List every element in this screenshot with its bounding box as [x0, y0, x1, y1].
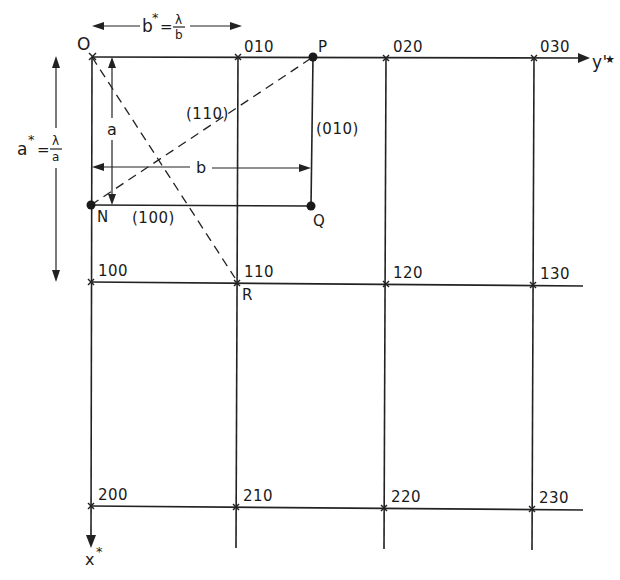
b-star-numerator: λ	[175, 13, 182, 27]
point-label-r: R	[242, 286, 253, 304]
a-length-label: a	[107, 120, 117, 139]
a-star-arrowhead-bottom	[52, 270, 60, 282]
b-arrowhead-right	[299, 164, 311, 172]
plane-110-trace	[91, 57, 313, 205]
a-star-superscript: *	[28, 132, 35, 147]
col-3-line	[532, 58, 534, 550]
plane-010-line	[311, 57, 313, 206]
node-label-110: 110	[244, 263, 274, 281]
point-label-q: Q	[313, 212, 325, 230]
point-n-dot	[87, 201, 96, 210]
y-star-arrowhead	[578, 53, 590, 63]
b-star-arrowhead-right	[230, 22, 242, 30]
node-label-020: 020	[393, 38, 423, 56]
row-1-line	[91, 282, 583, 286]
node-label-120: 120	[393, 264, 423, 282]
node-label-010: 010	[244, 38, 274, 56]
row-2-line	[91, 506, 583, 510]
row-0-line	[92, 57, 580, 58]
a-star-denominator: a	[52, 150, 59, 164]
plane-label-110: (110)	[186, 105, 229, 123]
y-star-axis-star: ★	[605, 53, 615, 66]
plane-100-line	[91, 205, 311, 206]
node-label-030: 030	[540, 38, 570, 56]
plane-labels: (110) (010) (100)	[132, 105, 359, 227]
x-star-axis-star: *	[96, 544, 103, 559]
x-star-arrowhead	[86, 535, 96, 548]
b-length-label: b	[196, 158, 207, 177]
a-arrowhead-top	[108, 57, 116, 68]
real-lattice-points	[87, 53, 318, 211]
plane-label-100: (100)	[132, 209, 175, 227]
node-label-100: 100	[98, 262, 128, 280]
a-star-numerator: λ	[52, 134, 59, 148]
plane-label-010: (010)	[316, 120, 359, 138]
col-1-line	[236, 57, 238, 548]
node-labels: 010 020 030 100 110 120 130 200 210 220 …	[98, 38, 570, 507]
node-label-220: 220	[391, 488, 421, 506]
point-label-n: N	[97, 208, 109, 226]
node-label-210: 210	[243, 487, 273, 505]
a-star-symbol: a	[17, 139, 28, 159]
lattice-columns	[86, 57, 534, 550]
b-star-equals: =	[160, 18, 173, 36]
point-label-p: P	[318, 38, 328, 56]
b-star-arrowhead-left	[92, 22, 104, 30]
col-0-line	[91, 57, 92, 536]
node-label-230: 230	[539, 489, 569, 507]
b-star-superscript: *	[152, 10, 159, 25]
x-star-axis-label: x	[85, 550, 95, 569]
reciprocal-lattice-diagram: 010 020 030 100 110 120 130 200 210 220 …	[0, 0, 620, 580]
col-2-line	[384, 58, 386, 549]
point-p-dot	[309, 53, 318, 62]
a-arrowhead-bottom	[108, 194, 116, 205]
a-star-equals: =	[37, 141, 50, 159]
node-label-200: 200	[98, 486, 128, 504]
a-star-arrowhead-top	[52, 56, 60, 68]
b-star-denominator: b	[175, 28, 183, 42]
point-label-o: O	[77, 34, 91, 54]
node-label-130: 130	[540, 265, 570, 283]
point-q-dot	[307, 202, 316, 211]
b-arrowhead-left	[92, 163, 104, 171]
